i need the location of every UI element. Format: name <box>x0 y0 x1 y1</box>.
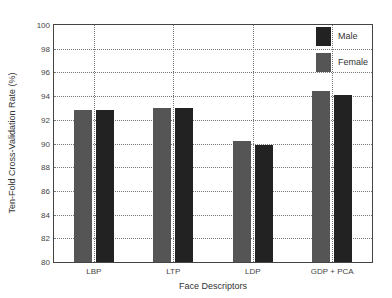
bar-female-lbp <box>74 110 92 262</box>
y-tick-label: 86 <box>26 186 50 195</box>
y-tick-label: 88 <box>26 163 50 172</box>
y-tick-label: 96 <box>26 68 50 77</box>
y-tick-label: 82 <box>26 234 50 243</box>
bar-male-ltp <box>175 108 193 262</box>
x-tick-label: GDP + PCA <box>311 267 354 276</box>
gridline-vertical <box>94 25 95 262</box>
bar-female-gdp-pca <box>312 91 330 262</box>
y-tick-label: 94 <box>26 92 50 101</box>
bar-male-ldp <box>255 145 273 262</box>
gridline-horizontal <box>54 72 372 73</box>
y-tick-label: 80 <box>26 258 50 267</box>
x-tick-label: LTP <box>166 267 180 276</box>
gridline-vertical <box>173 25 174 262</box>
bar-male-lbp <box>96 110 114 262</box>
bar-female-ldp <box>233 141 251 262</box>
y-tick-label: 90 <box>26 139 50 148</box>
x-tick-label: LDP <box>245 267 261 276</box>
gridline-vertical <box>332 25 333 262</box>
plot-area: MaleFemale <box>53 24 373 263</box>
bar-female-ltp <box>153 108 171 262</box>
y-axis-label: Ten-Fold Cross-Validation Rate (%) <box>7 73 17 214</box>
y-tick-label: 98 <box>26 44 50 53</box>
x-tick-label: LBP <box>86 267 101 276</box>
legend-label-female: Female <box>338 57 368 67</box>
y-tick-label: 92 <box>26 115 50 124</box>
legend-swatch-male <box>316 27 331 46</box>
gridline-vertical <box>253 25 254 262</box>
bar-male-gdp-pca <box>334 95 352 262</box>
legend-swatch-female <box>316 53 331 72</box>
x-axis-label: Face Descriptors <box>53 281 373 291</box>
y-tick-label: 100 <box>26 21 50 30</box>
legend-label-male: Male <box>338 31 358 41</box>
gridline-horizontal <box>54 49 372 50</box>
y-tick-label: 84 <box>26 210 50 219</box>
